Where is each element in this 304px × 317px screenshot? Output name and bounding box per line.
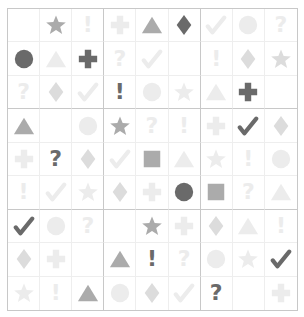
- grid-cell[interactable]: [8, 277, 40, 310]
- grid-cell[interactable]: [201, 109, 233, 142]
- grid-cell[interactable]: [233, 243, 265, 276]
- grid-cell[interactable]: [104, 210, 136, 243]
- grid-cell[interactable]: [8, 109, 40, 142]
- grid-cell[interactable]: [169, 76, 201, 109]
- grid-cell[interactable]: ?: [136, 109, 168, 142]
- grid-cell[interactable]: [169, 42, 201, 75]
- star-icon: [141, 215, 163, 237]
- grid-cell[interactable]: [40, 76, 72, 109]
- grid-cell[interactable]: [72, 143, 104, 176]
- grid-cell[interactable]: [8, 9, 40, 42]
- grid-cell[interactable]: [8, 143, 40, 176]
- grid-cell[interactable]: [104, 143, 136, 176]
- grid-cell[interactable]: [40, 176, 72, 209]
- star-icon: [109, 115, 131, 137]
- grid-cell[interactable]: [72, 76, 104, 109]
- grid-cell[interactable]: [169, 277, 201, 310]
- grid-cell[interactable]: [265, 277, 297, 310]
- grid-cell[interactable]: [8, 210, 40, 243]
- grid-cell[interactable]: !: [233, 143, 265, 176]
- grid-cell[interactable]: ?: [72, 210, 104, 243]
- grid-cell[interactable]: [265, 76, 297, 109]
- grid-cell[interactable]: [136, 76, 168, 109]
- grid-cell[interactable]: ?: [233, 176, 265, 209]
- grid-cell[interactable]: !: [72, 9, 104, 42]
- check-icon: [270, 248, 292, 270]
- grid-cell[interactable]: [136, 42, 168, 75]
- circle-icon: [237, 14, 259, 36]
- grid-cell[interactable]: [8, 42, 40, 75]
- grid-cell[interactable]: [265, 42, 297, 75]
- triangle-icon: [270, 181, 292, 203]
- grid-cell[interactable]: ?: [201, 277, 233, 310]
- grid-cell[interactable]: ?: [104, 42, 136, 75]
- grid-cell[interactable]: ?: [169, 243, 201, 276]
- grid-cell[interactable]: !: [265, 210, 297, 243]
- grid-cell[interactable]: [201, 9, 233, 42]
- grid-cell[interactable]: [201, 176, 233, 209]
- grid-cell[interactable]: !: [8, 176, 40, 209]
- grid-cell[interactable]: [104, 109, 136, 142]
- star-icon: [270, 48, 292, 70]
- grid-cell[interactable]: [136, 210, 168, 243]
- grid-cell[interactable]: [201, 243, 233, 276]
- check-icon: [141, 48, 163, 70]
- grid-cell[interactable]: !: [169, 109, 201, 142]
- grid-cell[interactable]: [265, 243, 297, 276]
- grid-cell[interactable]: [233, 277, 265, 310]
- grid-cell[interactable]: [72, 277, 104, 310]
- circle-icon: [77, 115, 99, 137]
- grid-cell[interactable]: [265, 176, 297, 209]
- grid-cell[interactable]: [104, 176, 136, 209]
- grid-cell[interactable]: [169, 176, 201, 209]
- grid-cell[interactable]: [169, 210, 201, 243]
- grid-cell[interactable]: [72, 109, 104, 142]
- question-mark-icon: ?: [13, 81, 35, 103]
- grid-cell[interactable]: [104, 243, 136, 276]
- grid-cell[interactable]: [136, 143, 168, 176]
- grid-cell[interactable]: !: [40, 277, 72, 310]
- grid-cell[interactable]: [233, 210, 265, 243]
- diamond-icon: [141, 282, 163, 304]
- grid-cell[interactable]: [40, 210, 72, 243]
- grid-cell[interactable]: [136, 176, 168, 209]
- grid-cell[interactable]: ?: [8, 76, 40, 109]
- grid-cell[interactable]: [265, 143, 297, 176]
- question-mark-icon: ?: [109, 48, 131, 70]
- square-icon: [141, 148, 163, 170]
- grid-cell[interactable]: !: [201, 42, 233, 75]
- grid-cell[interactable]: [233, 109, 265, 142]
- grid-cell[interactable]: !: [104, 76, 136, 109]
- grid-cell[interactable]: [104, 9, 136, 42]
- grid-cell[interactable]: ?: [265, 9, 297, 42]
- plus-icon: [45, 248, 67, 270]
- grid-cell[interactable]: [136, 277, 168, 310]
- grid-cell[interactable]: [8, 243, 40, 276]
- check-icon: [205, 14, 227, 36]
- grid-cell[interactable]: [233, 76, 265, 109]
- plus-icon: [237, 81, 259, 103]
- grid-cell[interactable]: [201, 143, 233, 176]
- grid-cell[interactable]: !: [136, 243, 168, 276]
- grid-cell[interactable]: [136, 9, 168, 42]
- grid-cell[interactable]: [233, 42, 265, 75]
- grid-cell[interactable]: [72, 243, 104, 276]
- grid-cell[interactable]: [201, 210, 233, 243]
- grid-cell[interactable]: [40, 9, 72, 42]
- triangle-icon: [77, 282, 99, 304]
- exclamation-icon: !: [205, 48, 227, 70]
- grid-cell[interactable]: [169, 143, 201, 176]
- grid-cell[interactable]: [72, 176, 104, 209]
- grid-cell[interactable]: [40, 243, 72, 276]
- grid-cell[interactable]: [201, 76, 233, 109]
- grid-cell[interactable]: [104, 277, 136, 310]
- grid-cell[interactable]: [169, 9, 201, 42]
- grid-cell[interactable]: [265, 109, 297, 142]
- grid-cell[interactable]: [40, 109, 72, 142]
- grid-cell[interactable]: [233, 9, 265, 42]
- exclamation-icon: !: [141, 248, 163, 270]
- question-mark-icon: ?: [141, 115, 163, 137]
- grid-cell[interactable]: [72, 42, 104, 75]
- grid-cell[interactable]: ?: [40, 143, 72, 176]
- grid-cell[interactable]: [40, 42, 72, 75]
